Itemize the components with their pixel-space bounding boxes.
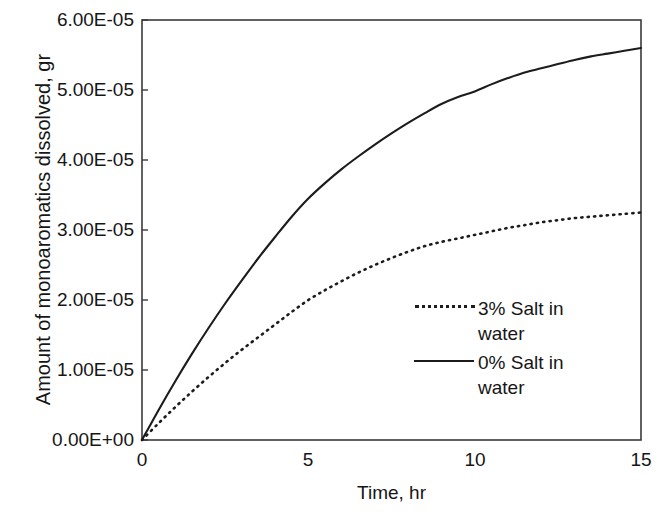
legend-label-0pct-salt: 0% Salt in water (478, 350, 564, 400)
legend-label-3pct-salt: 3% Salt in water (478, 296, 564, 346)
legend-label-0pct-salt-line1: 0% Salt in (478, 350, 564, 375)
plot-canvas (0, 0, 657, 515)
legend-swatch-solid-line (412, 350, 478, 372)
legend-label-3pct-salt-line1: 3% Salt in (478, 296, 564, 321)
legend-label-0pct-salt-line2: water (478, 375, 564, 400)
legend-item-0pct-salt: 0% Salt in water (412, 350, 564, 400)
series-line-3pct-salt (142, 213, 641, 441)
series-line-0pct-salt (142, 48, 641, 440)
legend-swatch-dotted-line (412, 296, 478, 318)
legend-label-3pct-salt-line2: water (478, 321, 564, 346)
y-axis-ticks (142, 20, 148, 440)
chart-figure: Amount of monoaromatics dissolved, gr 6.… (0, 0, 657, 515)
legend-item-3pct-salt: 3% Salt in water (412, 296, 564, 346)
plot-area-border (142, 20, 641, 440)
chart-legend: 3% Salt in water 0% Salt in water (412, 296, 564, 404)
